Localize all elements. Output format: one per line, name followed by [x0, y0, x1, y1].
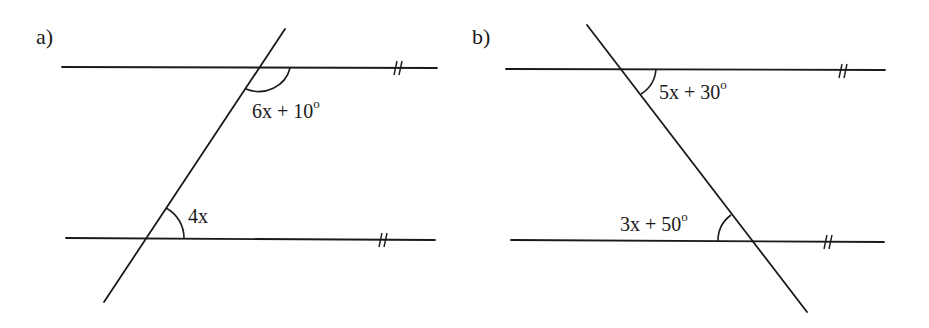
angle-arc-bottom [166, 208, 184, 238]
parallel-line-top [506, 69, 885, 70]
angle-arc-top [641, 69, 656, 94]
angle-arc-bottom [718, 215, 731, 241]
transversal-line [587, 25, 807, 312]
figure-a-label: a) [36, 24, 53, 49]
transversal-line [104, 29, 285, 302]
parallel-line-bottom [66, 238, 435, 240]
angle-label-bottom: 3x + 50o [620, 209, 688, 235]
figure-b: b) 5x + 30o 3x + 50o [472, 24, 885, 312]
parallel-lines-diagram: a) 6x + 10o 4x b) [0, 0, 929, 328]
parallel-mark-top [839, 64, 847, 78]
figure-a: a) 6x + 10o 4x [36, 24, 437, 302]
parallel-line-bottom [511, 240, 884, 242]
parallel-line-top [62, 67, 437, 68]
figure-b-label: b) [472, 24, 490, 49]
angle-label-top: 6x + 10o [252, 96, 320, 122]
angle-arc-top [246, 68, 290, 91]
angle-label-bottom: 4x [188, 205, 208, 227]
angle-label-top: 5x + 30o [659, 77, 727, 103]
